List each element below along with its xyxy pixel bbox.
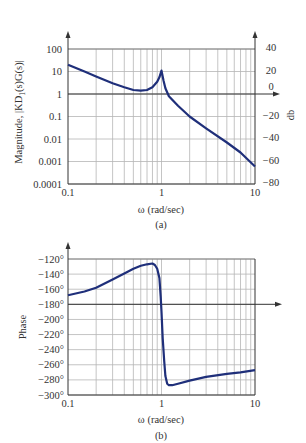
magnitude-y-label: Magnitude, |KD1(s)G(s)| <box>13 60 27 164</box>
db-tick-label: −80 <box>263 177 279 188</box>
y-tick-label: 0.0001 <box>33 179 62 190</box>
magnitude-caption: (a) <box>155 219 167 231</box>
zero-db-arrow-icon <box>273 92 280 97</box>
y-tick-label: −260° <box>38 359 64 370</box>
y-tick-label: −300° <box>38 390 64 401</box>
x-tick-label: 1 <box>159 398 164 409</box>
db-tick-label: 20 <box>266 65 277 76</box>
db-tick-label: −20 <box>263 110 279 121</box>
magnitude-y-label-prefix: Magnitude, |KD <box>13 95 24 163</box>
phase-x-ticks: 0.1110 <box>61 398 260 409</box>
y-tick-label: 1 <box>57 89 62 100</box>
db-tick-label: −60 <box>263 155 279 166</box>
y-tick-label: −220° <box>38 329 64 340</box>
db-tick-label: 40 <box>266 42 277 53</box>
magnitude-db-ticks: 40200−20−40−60−80 <box>263 42 279 188</box>
magnitude-plot: 1001010.10.010.0010.0001 40200−20−40−60−… <box>13 31 296 231</box>
magnitude-grid <box>68 49 255 184</box>
magnitude-x-label: ω (rad/sec) <box>138 204 185 216</box>
x-tick-label: 0.1 <box>61 398 74 409</box>
y-tick-label: 0.001 <box>38 156 62 167</box>
phase-y-label: Phase <box>17 314 28 339</box>
y-tick-label: 10 <box>52 66 63 77</box>
x-tick-label: 10 <box>250 398 261 409</box>
magnitude-y-ticks: 1001010.10.010.0010.0001 <box>33 44 62 190</box>
phase-y-ticks: −120°−140°−160°−180°−200°−220°−240°−260°… <box>38 254 64 401</box>
right-axis-arrow-icon <box>253 31 258 38</box>
y-tick-label: −120° <box>38 254 64 265</box>
phase-x-label: ω (rad/sec) <box>138 414 185 426</box>
y-tick-label: 100 <box>46 44 62 55</box>
y-tick-label: 0.01 <box>44 134 62 145</box>
minus-180-arrow-icon <box>275 302 282 307</box>
db-tick-label: −40 <box>263 132 279 143</box>
y-tick-label: 0.1 <box>49 111 62 122</box>
y-tick-label: −240° <box>38 344 64 355</box>
db-tick-label: 0 <box>268 81 273 92</box>
phase-plot: −120°−140°−160°−180°−200°−220°−240°−260°… <box>17 242 282 442</box>
y-tick-label: −160° <box>38 284 64 295</box>
y-tick-label: −180° <box>38 299 64 310</box>
phase-caption: (b) <box>155 430 168 442</box>
db-axis-label: db <box>285 110 296 121</box>
x-tick-label: 1 <box>159 187 164 198</box>
bode-figure: 1001010.10.010.0010.0001 40200−20−40−60−… <box>0 0 306 443</box>
y-tick-label: −280° <box>38 374 64 385</box>
x-tick-label: 10 <box>250 187 261 198</box>
y-tick-label: −140° <box>38 269 64 280</box>
phase-axis-arrow-icon <box>66 242 71 249</box>
left-axis-arrow-icon <box>66 31 71 38</box>
magnitude-y-label-suffix: (s)G(s)| <box>13 60 25 92</box>
y-tick-label: −200° <box>38 314 64 325</box>
x-tick-label: 0.1 <box>61 187 74 198</box>
magnitude-x-ticks: 0.1110 <box>61 187 260 198</box>
